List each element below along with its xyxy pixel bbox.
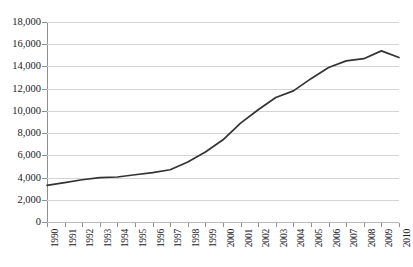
- y-axis-tick-label: 0: [1, 217, 41, 228]
- x-axis-tick-label: 1998: [192, 229, 202, 247]
- y-axis-tick: [42, 178, 47, 179]
- x-axis-tick-label: 1992: [86, 229, 96, 247]
- x-axis-tick: [399, 223, 400, 227]
- x-axis-tick: [65, 223, 66, 227]
- gridline: [47, 133, 399, 134]
- y-axis-tick: [42, 111, 47, 112]
- x-axis-tick-label: 2004: [297, 229, 307, 247]
- x-axis-tick: [100, 223, 101, 227]
- x-axis-tick: [329, 223, 330, 227]
- y-axis-tick-label: 8,000: [1, 128, 41, 139]
- chart-title: [0, 0, 401, 3]
- y-axis-tick: [42, 22, 47, 23]
- gridline: [47, 44, 399, 45]
- x-axis-tick-label: 1991: [69, 229, 79, 247]
- x-axis-tick-label: 1994: [121, 229, 131, 247]
- x-axis-tick: [135, 223, 136, 227]
- x-axis-tick: [170, 223, 171, 227]
- y-axis-tick: [42, 89, 47, 90]
- x-axis-tick: [205, 223, 206, 227]
- x-axis-tick: [188, 223, 189, 227]
- x-axis-tick: [117, 223, 118, 227]
- x-axis-tick: [311, 223, 312, 227]
- x-axis-tick-label: 1996: [157, 229, 167, 247]
- plot-area: [47, 22, 399, 222]
- y-axis-tick: [42, 66, 47, 67]
- gridline: [47, 66, 399, 67]
- x-axis-tick-label: 1997: [174, 229, 184, 247]
- gridline: [47, 178, 399, 179]
- y-axis-tick-label: 18,000: [1, 17, 41, 28]
- y-axis-tick-label: 16,000: [1, 39, 41, 50]
- x-axis-tick-label: 2003: [280, 229, 290, 247]
- x-axis-tick-label: 2009: [385, 229, 395, 247]
- x-axis-tick: [381, 223, 382, 227]
- x-axis-tick-label: 1993: [104, 229, 114, 247]
- x-axis-tick: [47, 223, 48, 227]
- gridline: [47, 89, 399, 90]
- y-axis-tick: [42, 155, 47, 156]
- y-axis-tick-label: 14,000: [1, 61, 41, 72]
- y-axis-tick: [42, 133, 47, 134]
- x-axis-tick-label: 2000: [227, 229, 237, 247]
- x-axis-tick-label: 2006: [333, 229, 343, 247]
- y-axis-tick-label: 12,000: [1, 84, 41, 95]
- y-axis-labels: 18,00016,00014,00012,00010,0008,0006,000…: [0, 0, 41, 267]
- gridline: [47, 155, 399, 156]
- y-axis-tick-label: 6,000: [1, 150, 41, 161]
- gridline: [47, 200, 399, 201]
- y-axis-tick-label: 10,000: [1, 106, 41, 117]
- x-axis-tick: [258, 223, 259, 227]
- x-axis-tick: [223, 223, 224, 227]
- x-axis-tick-label: 2005: [315, 229, 325, 247]
- x-axis-tick-label: 2008: [368, 229, 378, 247]
- x-axis-tick-label: 2010: [403, 229, 413, 247]
- gridline: [47, 22, 399, 23]
- x-axis-tick: [364, 223, 365, 227]
- x-axis-tick-label: 2002: [262, 229, 272, 247]
- x-axis-tick-label: 1990: [51, 229, 61, 247]
- y-axis-tick-label: 2,000: [1, 195, 41, 206]
- y-axis-tick: [42, 44, 47, 45]
- x-axis-tick: [82, 223, 83, 227]
- x-axis-tick: [153, 223, 154, 227]
- x-axis-tick: [241, 223, 242, 227]
- x-axis-tick-label: 1999: [209, 229, 219, 247]
- y-axis-tick: [42, 200, 47, 201]
- gridline: [47, 111, 399, 112]
- x-axis-tick: [346, 223, 347, 227]
- x-axis-tick-label: 2007: [350, 229, 360, 247]
- x-axis-tick: [276, 223, 277, 227]
- x-axis-tick-label: 1995: [139, 229, 149, 247]
- y-axis-tick-label: 4,000: [1, 173, 41, 184]
- x-axis-tick: [293, 223, 294, 227]
- x-axis-tick-label: 2001: [245, 229, 255, 247]
